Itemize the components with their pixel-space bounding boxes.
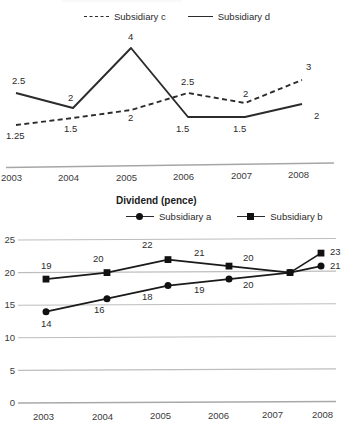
top-x-label-2004: 2004 xyxy=(58,172,79,183)
data-label-c-2006: 2.5 xyxy=(181,77,194,87)
series-b-markers xyxy=(43,250,325,283)
y-tick-5: 5 xyxy=(0,365,15,376)
top-x-label-2003: 2003 xyxy=(1,172,22,183)
y-tick-25: 25 xyxy=(0,234,15,245)
top-chart-plot xyxy=(0,0,344,190)
data-label-c-2008: 3 xyxy=(306,62,311,72)
data-label-d-2006: 1.5 xyxy=(176,124,189,134)
bottom-x-label-2008: 2008 xyxy=(312,409,333,420)
bottom-x-label-2004: 2004 xyxy=(92,411,113,422)
data-label-b-2004: 20 xyxy=(93,254,104,264)
data-label-d-2005: 4 xyxy=(128,32,133,42)
y-tick-10: 10 xyxy=(0,332,15,343)
bottom-x-label-2005: 2005 xyxy=(150,410,171,421)
series-line-subsidiary-b xyxy=(46,253,321,279)
y-tick-0: 0 xyxy=(0,397,15,408)
bottom-x-label-2006: 2006 xyxy=(208,410,229,421)
bottom-line-chart: Dividend (pence) Subsidiary a Subsidiary… xyxy=(0,190,344,423)
data-label-d-2008: 2 xyxy=(314,111,319,121)
bottom-chart-gridlines xyxy=(18,239,336,404)
top-x-label-2006: 2006 xyxy=(173,171,194,182)
data-label-c-2005: 2 xyxy=(128,113,133,123)
bottom-x-label-2007: 2007 xyxy=(262,409,283,420)
data-label-a-2005: 18 xyxy=(142,292,153,302)
y-tick-15: 15 xyxy=(0,299,15,310)
data-label-c-2007: 2 xyxy=(243,89,248,99)
bottom-x-label-2003: 2003 xyxy=(33,411,54,422)
data-label-b-2008: 23 xyxy=(330,247,341,257)
chart-page: Subsidiary c Subsidiary d 2.5 2 4 1.5 1.… xyxy=(0,0,344,423)
top-x-label-2008: 2008 xyxy=(288,169,309,180)
top-x-label-2007: 2007 xyxy=(231,170,252,181)
y-tick-20: 20 xyxy=(0,267,15,278)
data-label-a-2004: 16 xyxy=(94,305,105,315)
series-line-subsidiary-d xyxy=(16,48,302,117)
bottom-chart-plot xyxy=(0,190,344,423)
top-line-chart: Subsidiary c Subsidiary d 2.5 2 4 1.5 1.… xyxy=(0,0,344,190)
series-line-subsidiary-c xyxy=(16,80,302,125)
series-a-markers xyxy=(43,263,325,316)
data-label-b-2006: 21 xyxy=(194,248,205,258)
data-label-c-2004: 1.5 xyxy=(64,124,77,134)
data-label-c-2003: 1.25 xyxy=(6,131,25,141)
data-label-b-2007: 20 xyxy=(243,253,254,263)
data-label-b-2005: 22 xyxy=(142,240,153,250)
data-label-d-2007: 1.5 xyxy=(233,124,246,134)
data-label-d-2003: 2.5 xyxy=(12,76,25,86)
data-label-a-2006: 19 xyxy=(194,285,205,295)
data-label-a-2008: 21 xyxy=(330,261,341,271)
data-label-d-2004: 2 xyxy=(68,93,73,103)
data-label-a-2003: 14 xyxy=(41,319,52,329)
top-x-label-2005: 2005 xyxy=(116,172,137,183)
data-label-a-2007: 20 xyxy=(243,280,254,290)
data-label-b-2003: 19 xyxy=(41,261,52,271)
top-chart-x-axis xyxy=(6,163,334,168)
